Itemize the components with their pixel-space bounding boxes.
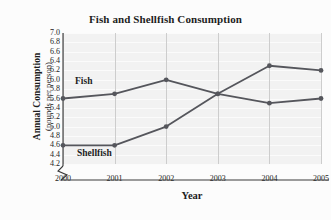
horizontal-gridline [63, 99, 321, 100]
y-tick-label: 7.0 [38, 29, 60, 37]
vertical-gridline [321, 33, 322, 164]
plot-area [63, 33, 321, 164]
y-tick-label: 5.6 [38, 95, 60, 103]
y-tick-labels: 7.06.86.66.46.26.05.85.65.45.25.04.84.64… [36, 33, 60, 164]
x-tick-label: 2000 [43, 174, 83, 183]
series-label-shellfish: Shellfish [77, 148, 112, 158]
horizontal-gridline [63, 42, 321, 43]
y-tick-label: 6.6 [38, 48, 60, 56]
horizontal-gridline [63, 52, 321, 53]
horizontal-gridline [63, 145, 321, 146]
series-label-fish: Fish [75, 76, 92, 86]
horizontal-gridline [63, 136, 321, 137]
y-tick-label: 4.6 [38, 141, 60, 149]
x-tick-label: 2001 [95, 174, 135, 183]
vertical-gridline [115, 33, 116, 164]
vertical-gridline [218, 33, 219, 164]
horizontal-gridline [63, 80, 321, 81]
y-tick-label: 5.4 [38, 104, 60, 112]
horizontal-gridline [63, 70, 321, 71]
horizontal-gridline [63, 89, 321, 90]
vertical-gridline [269, 33, 270, 164]
x-axis-label: Year [63, 190, 321, 201]
horizontal-gridline [63, 33, 321, 34]
horizontal-gridline [63, 117, 321, 118]
horizontal-gridline [63, 61, 321, 62]
y-tick-label: 6.0 [38, 76, 60, 84]
vertical-gridline [63, 33, 64, 164]
y-tick-label: 5.2 [38, 113, 60, 121]
y-tick-label: 5.0 [38, 123, 60, 131]
y-tick-label: 4.8 [38, 132, 60, 140]
y-tick-label: 6.2 [38, 66, 60, 74]
x-tick-label: 2002 [146, 174, 186, 183]
y-tick-label: 4.4 [38, 151, 60, 159]
chart-figure: Fish and Shellfish Consumption Annual Co… [0, 0, 331, 220]
y-tick-label: 6.8 [38, 38, 60, 46]
vertical-gridline [166, 33, 167, 164]
horizontal-gridline [63, 108, 321, 109]
horizontal-gridline [63, 164, 321, 165]
y-tick-label: 4.2 [38, 160, 60, 168]
x-tick-label: 2004 [249, 174, 289, 183]
y-axis-label: Annual Consumption (pounds per person) [6, 24, 32, 169]
x-tick-label: 2005 [301, 174, 331, 183]
x-tick-label: 2003 [198, 174, 238, 183]
y-tick-label: 6.4 [38, 57, 60, 65]
x-tick-labels: 200020012002200320042005 [63, 174, 331, 186]
y-tick-label: 5.8 [38, 85, 60, 93]
horizontal-gridline [63, 127, 321, 128]
